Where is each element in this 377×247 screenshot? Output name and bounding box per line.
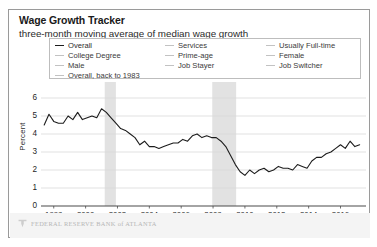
legend-item-college-degree[interactable]: College Degree: [55, 51, 165, 61]
legend-swatch-icon: [55, 45, 64, 46]
legend-item-services[interactable]: Services: [165, 41, 266, 51]
y-axis-tick-label: 5: [23, 112, 37, 120]
legend-column-2: Services Prime-age Job Stayer: [165, 41, 266, 80]
legend-item-label: Job Stayer: [178, 61, 214, 70]
chart-plot-area: Percent 01234561998200020022004200620082…: [9, 82, 371, 217]
legend-item-prime-age[interactable]: Prime-age: [165, 51, 266, 61]
legend-item-female[interactable]: Female: [266, 51, 357, 61]
legend-item-usually-full-time[interactable]: Usually Full-time: [266, 41, 357, 51]
legend-swatch-icon: [55, 75, 64, 76]
legend-swatch-icon: [165, 65, 174, 66]
legend-item-label: Female: [279, 51, 304, 60]
page-title: Wage Growth Tracker: [19, 14, 359, 27]
legend-swatch-icon: [165, 45, 174, 46]
legend-swatch-icon: [266, 65, 275, 66]
y-axis-tick-label: 0: [23, 202, 37, 210]
chart-header: Wage Growth Tracker three-month moving a…: [19, 14, 359, 40]
legend-item-job-switcher[interactable]: Job Switcher: [266, 61, 357, 71]
legend-column-1: Overall College Degree Male Overall, bac…: [55, 41, 165, 80]
legend-swatch-icon: [266, 55, 275, 56]
legend-item-label: Overall, back to 1983: [68, 71, 140, 80]
legend-item-label: College Degree: [68, 51, 121, 60]
chart-footer: FEDERAL RESERVE BANK of ATLANTA: [10, 213, 370, 238]
y-axis-tick-label: 1: [23, 184, 37, 192]
footer-text: FEDERAL RESERVE BANK of ATLANTA: [31, 220, 157, 227]
fed-atlanta-logo-icon: [18, 219, 27, 228]
chart-card: Wage Growth Tracker three-month moving a…: [8, 9, 370, 238]
legend-item-label: Overall: [68, 41, 92, 50]
legend-swatch-icon: [165, 55, 174, 56]
y-axis-tick-label: 3: [23, 148, 37, 156]
legend-item-label: Prime-age: [178, 51, 213, 60]
legend-grid: Overall College Degree Male Overall, bac…: [55, 41, 357, 80]
footer-logo-wrap: FEDERAL RESERVE BANK of ATLANTA: [18, 219, 157, 228]
legend-item-label: Usually Full-time: [279, 41, 335, 50]
legend-item-overall-back-to-1983[interactable]: Overall, back to 1983: [55, 70, 165, 80]
legend-item-label: Male: [68, 61, 84, 70]
legend-item-job-stayer[interactable]: Job Stayer: [165, 61, 266, 71]
legend-item-label: Services: [178, 41, 207, 50]
legend-item-label: Job Switcher: [279, 61, 322, 70]
y-axis-tick-label: 6: [23, 94, 37, 102]
legend-column-3: Usually Full-time Female Job Switcher: [266, 41, 357, 80]
legend-swatch-icon: [55, 65, 64, 66]
legend-item-male[interactable]: Male: [55, 61, 165, 71]
y-axis-tick-label: 4: [23, 130, 37, 138]
legend-swatch-icon: [266, 45, 275, 46]
legend-item-overall[interactable]: Overall: [55, 41, 165, 51]
chart-legend: Overall College Degree Male Overall, bac…: [49, 38, 361, 79]
line-chart-svg: [9, 82, 371, 217]
legend-swatch-icon: [55, 55, 64, 56]
y-axis-tick-label: 2: [23, 166, 37, 174]
